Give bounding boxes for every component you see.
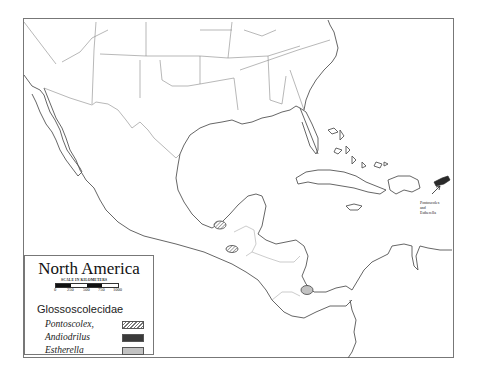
central-america-caribbean-coast	[258, 234, 352, 292]
gray-swatch-icon	[122, 347, 144, 355]
us-mexico-border	[44, 88, 180, 158]
pontoscolex-range-veracruz	[214, 221, 226, 229]
hispaniola	[388, 176, 420, 194]
pontoscolex-range-oaxaca	[226, 246, 238, 253]
cuba	[296, 170, 386, 194]
scale-tick: 0	[54, 287, 56, 292]
legend-label: Pontoscolex,	[45, 319, 94, 329]
scale-tick: 500	[83, 287, 90, 292]
scale-tick: 1000	[113, 287, 122, 292]
scale-ticks: 0 250 500 750 1000	[51, 287, 131, 293]
annotation-line: Estherella	[420, 210, 450, 215]
state-borders	[92, 22, 330, 110]
jamaica	[346, 204, 362, 210]
hatched-swatch-icon	[122, 321, 144, 329]
bahamas	[328, 128, 388, 168]
guatemala-border	[234, 226, 256, 256]
estherella-range-costa-rica	[301, 286, 313, 295]
atlantic-coast-us	[304, 20, 338, 110]
dark-swatch-icon	[122, 334, 144, 342]
south-america-coast	[352, 244, 452, 290]
legend-title: North America	[25, 259, 153, 279]
annotation-label: Pontoscolex and Estherella	[420, 200, 450, 215]
panama-coast	[284, 300, 352, 318]
gulf-coast-us	[180, 106, 318, 154]
california-border	[24, 22, 56, 64]
legend-label: Estherella	[45, 345, 84, 355]
legend-item-pontoscolex: Pontoscolex,	[45, 319, 155, 332]
scale-tick: 250	[67, 287, 74, 292]
scale-caption: SCALE IN KILOMETERS	[61, 278, 107, 282]
annotation-arrow	[432, 186, 440, 194]
colombia-pacific-coast	[348, 300, 356, 358]
scale-tick: 750	[98, 287, 105, 292]
pacific-coastline	[24, 75, 82, 176]
legend-item-estherella: Estherella	[45, 345, 155, 358]
legend: North America SCALE IN KILOMETERS 0 250 …	[24, 255, 154, 355]
honduras-border	[252, 252, 300, 262]
legend-item-andiodrilus: Andiodrilus	[45, 332, 155, 345]
puerto-rico-andiodrilus	[434, 176, 450, 186]
legend-label: Andiodrilus	[45, 332, 90, 342]
nicaragua-border	[272, 292, 300, 300]
family-name: Glossoscolecidae	[37, 303, 123, 315]
colorado-river	[62, 30, 108, 62]
